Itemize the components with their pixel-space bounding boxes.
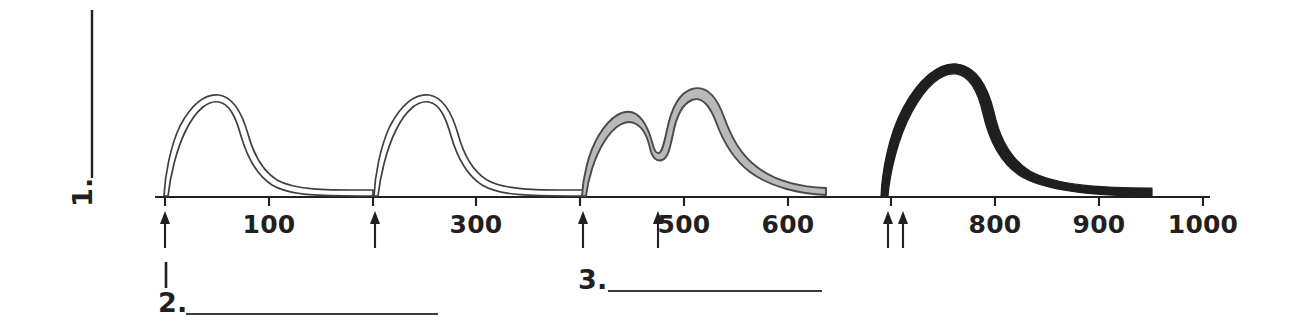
marker-arrow-3 [578,211,588,248]
y-axis-group: 1. [67,10,98,207]
x-axis-group: 100 300 500 600 800 900 1000 [155,197,1238,239]
peak-1-curve [164,95,373,196]
callout-2-label: 2. [158,287,187,318]
x-axis-tick-label-500: 500 [658,210,711,239]
peak-3-ribbon [582,88,826,196]
x-axis-tick-label-100: 100 [243,210,296,239]
x-axis-tick-label-1000: 1000 [1168,210,1238,239]
marker-arrow-6 [898,211,908,248]
x-axis-tick-label-300: 300 [450,210,503,239]
peak-2-curve [374,95,583,196]
x-axis-tick-label-800: 800 [969,210,1022,239]
callout-3-label: 3. [578,264,607,295]
marker-arrow-1 [160,211,170,248]
chromatogram-figure: 1. 100 300 500 600 800 900 1000 [0,0,1296,325]
x-axis-tick-label-600: 600 [762,210,815,239]
marker-arrow-2 [370,211,380,248]
x-axis-tick-label-900: 900 [1073,210,1126,239]
callout-2: 2. [158,262,438,318]
peak-4-curve [881,64,1152,196]
peak-2-ribbon [374,95,583,196]
peak-4-ribbon [881,64,1152,196]
peak-1-ribbon [164,95,373,196]
figure-canvas: 1. 100 300 500 600 800 900 1000 [0,0,1296,325]
y-axis-label: 1. [67,178,98,207]
marker-arrow-5 [883,211,893,248]
callout-3: 3. [578,264,822,295]
peak-3-curve [582,88,826,196]
